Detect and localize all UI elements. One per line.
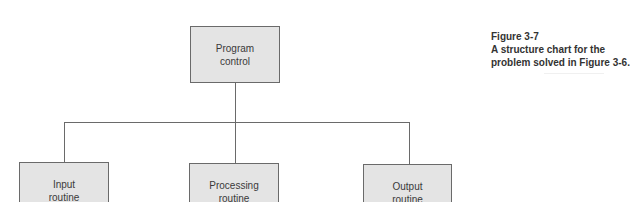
program-control-box: Program control [190,26,280,83]
box-label-line2: routine [49,191,80,203]
output-routine-box: Output routine [363,164,452,202]
box-label-line1: Input [53,178,75,191]
input-routine-box: Input routine [19,162,109,202]
processing-routine-box: Processing routine [189,163,279,202]
left-child-connector [64,122,65,162]
right-child-connector [409,122,410,164]
structure-chart: Program control Input routine Processing… [0,0,634,202]
box-label-line2: control [220,55,250,68]
box-label-line1: Output [392,180,422,193]
figure-label: Figure 3-7 [491,30,630,43]
box-label-line1: Program [216,42,254,55]
caption-line1: A structure chart for the [491,43,630,56]
figure-caption: Figure 3-7 A structure chart for the pro… [491,30,630,69]
box-label-line1: Processing [209,179,258,192]
box-label-line2: routine [219,192,250,203]
box-label-line2: routine [392,193,423,203]
root-vertical-connector [235,83,236,163]
caption-line2: problem solved in Figure 3-6. [491,56,630,69]
faint-underline-mark [544,73,604,74]
horizontal-bus-connector [64,122,410,123]
